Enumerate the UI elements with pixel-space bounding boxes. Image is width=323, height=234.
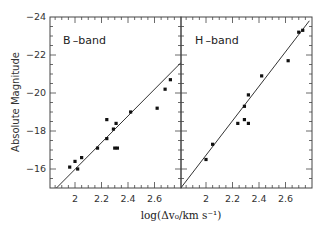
y-axis-title: Absolute Magnitude — [10, 52, 21, 152]
data-point — [80, 156, 83, 159]
chart: 22.22.42.6−24−22−20−18−1622.22.42.6 Abso… — [0, 0, 323, 234]
data-point — [105, 137, 108, 140]
data-point — [297, 31, 300, 34]
data-point — [169, 78, 172, 81]
data-point — [156, 107, 159, 110]
data-point — [247, 93, 250, 96]
y-tick-label: −22 — [26, 49, 46, 60]
data-point — [301, 29, 304, 32]
data-point — [204, 158, 207, 161]
y-tick-label: −24 — [26, 11, 46, 22]
data-point — [112, 128, 115, 131]
data-point — [287, 59, 290, 62]
series-b-band — [56, 63, 181, 188]
panel-label-h-band: H –band — [195, 34, 239, 47]
data-point — [116, 147, 119, 150]
data-point — [164, 88, 167, 91]
x-tick-label: 2 — [72, 193, 78, 204]
data-point — [96, 147, 99, 150]
data-point — [73, 160, 76, 163]
x-tick-label: 2 — [203, 193, 209, 204]
data-point — [260, 74, 263, 77]
data-point — [243, 105, 246, 108]
fit-line — [56, 63, 181, 188]
data-point — [236, 122, 239, 125]
x-tick-label: 2.6 — [147, 193, 162, 204]
x-tick-label: 2.2 — [94, 193, 109, 204]
x-axis-title: log(Δv₀/km s⁻¹) — [141, 209, 222, 221]
data-point — [129, 110, 132, 113]
y-tick-label: −20 — [26, 87, 46, 98]
data-point — [114, 122, 117, 125]
data-point — [68, 166, 71, 169]
data-point — [76, 167, 79, 170]
data-point — [105, 118, 108, 121]
panel-label-b-band: B –band — [63, 34, 106, 47]
y-tick-label: −18 — [26, 125, 46, 136]
y-tick-label: −16 — [26, 163, 46, 174]
x-tick-label: 2.4 — [251, 193, 266, 204]
x-tick-label: 2.4 — [120, 193, 135, 204]
data-point — [243, 118, 246, 121]
x-tick-label: 2.2 — [225, 193, 240, 204]
x-tick-label: 2.6 — [278, 193, 293, 204]
data-point — [211, 143, 214, 146]
data-point — [247, 122, 250, 125]
